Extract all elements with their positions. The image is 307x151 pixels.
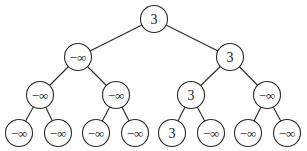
node-value-label: −∞ (240, 126, 257, 141)
node-value-label: −∞ (11, 126, 28, 141)
node-value-label: 3 (169, 126, 176, 141)
node-value-label: −∞ (50, 126, 67, 141)
tree-node-n3: −∞ (27, 82, 54, 109)
tree-node-n10: −∞ (122, 120, 149, 147)
tree-node-n5: 3 (178, 82, 205, 109)
node-value-label: 3 (188, 88, 195, 103)
node-value-label: −∞ (88, 126, 105, 141)
tree-node-n8: −∞ (45, 120, 72, 147)
node-value-label: −∞ (279, 126, 296, 141)
tree-nodes: 3−∞3−∞−∞3−∞−∞−∞−∞−∞3−∞−∞−∞ (6, 6, 301, 147)
tree-node-n6: −∞ (254, 82, 281, 109)
tree-node-n1: −∞ (65, 44, 92, 71)
node-value-label: −∞ (203, 126, 220, 141)
game-tree-diagram: 3−∞3−∞−∞3−∞−∞−∞−∞−∞3−∞−∞−∞ (0, 0, 307, 151)
tree-node-n14: −∞ (274, 120, 301, 147)
tree-edges (19, 19, 287, 133)
tree-node-n11: 3 (159, 120, 186, 147)
node-value-label: 3 (151, 12, 158, 27)
node-value-label: 3 (227, 50, 234, 65)
tree-node-n4: −∞ (103, 82, 130, 109)
tree-node-n12: −∞ (198, 120, 225, 147)
node-value-label: −∞ (108, 88, 125, 103)
tree-node-n0: 3 (141, 6, 168, 33)
tree-node-n13: −∞ (235, 120, 262, 147)
tree-node-n9: −∞ (83, 120, 110, 147)
tree-node-n7: −∞ (6, 120, 33, 147)
node-value-label: −∞ (259, 88, 276, 103)
tree-node-n2: 3 (217, 44, 244, 71)
node-value-label: −∞ (32, 88, 49, 103)
node-value-label: −∞ (127, 126, 144, 141)
node-value-label: −∞ (70, 50, 87, 65)
